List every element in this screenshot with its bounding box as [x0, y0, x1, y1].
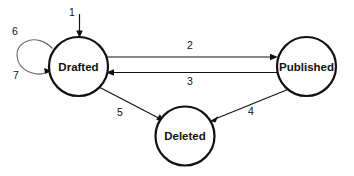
edge-label-3: 3: [187, 75, 193, 87]
edge-label-4: 4: [248, 105, 254, 117]
self-loop-arc: [17, 40, 53, 74]
transition-entry-drafted: [76, 14, 83, 38]
state-label-drafted: Drafted: [58, 61, 98, 73]
transition-drafted-to-deleted: [99, 87, 165, 121]
state-label-deleted: Deleted: [164, 130, 206, 142]
edge-label-1: 1: [69, 6, 75, 18]
edge-label-5: 5: [117, 106, 123, 118]
state-node-published[interactable]: Published: [277, 37, 336, 96]
state-diagram: Drafted Published Deleted 1 2 3 4 5 6 7: [0, 0, 354, 176]
edge-label-2: 2: [187, 39, 193, 51]
state-node-drafted[interactable]: Drafted: [49, 37, 108, 96]
state-diagram-canvas: Drafted Published Deleted 1 2 3 4 5 6 7: [0, 0, 354, 176]
edge-5-line: [99, 87, 160, 119]
transition-drafted-to-published: [107, 54, 279, 61]
edge-label-6: 6: [12, 25, 18, 37]
transition-self-loop-drafted: [17, 40, 53, 74]
edge-label-7: 7: [13, 69, 19, 81]
state-label-published: Published: [279, 61, 334, 73]
state-node-deleted[interactable]: Deleted: [156, 107, 215, 166]
